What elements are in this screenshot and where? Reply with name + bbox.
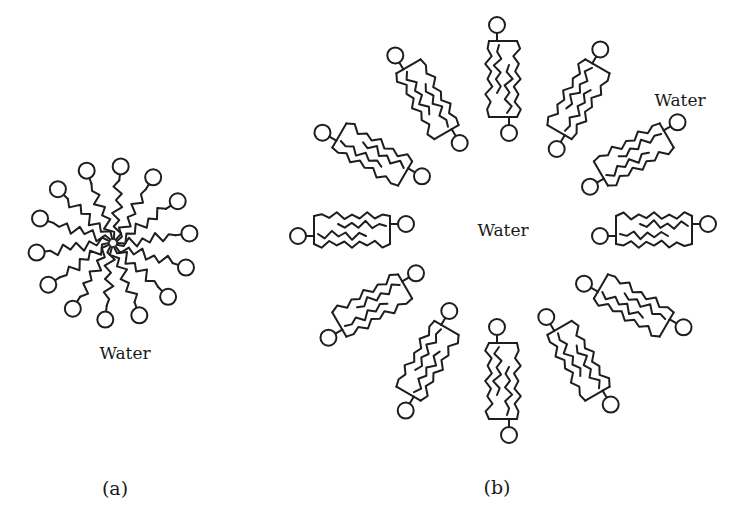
polar-head-icon — [489, 319, 505, 335]
panel-caption-b: (b) — [484, 476, 511, 498]
hydrocarbon-tail — [426, 84, 448, 127]
surfactant-molecule — [65, 245, 110, 317]
polar-head-icon — [314, 125, 330, 141]
surfactant-molecule — [32, 210, 111, 241]
bilayer-segment — [592, 212, 716, 248]
hydrocarbon-tail — [407, 72, 430, 115]
polar-head-icon — [160, 289, 176, 305]
polar-head-icon — [131, 307, 147, 323]
bilayer-segment — [314, 123, 430, 185]
water-label-vesicle-interior: Water — [477, 220, 528, 240]
hydrocarbon-tail — [640, 220, 688, 229]
bilayer-segment — [387, 47, 467, 151]
hydrocarbon-tail — [115, 246, 172, 263]
tail-outline — [616, 212, 692, 219]
surfactant-molecule — [115, 246, 194, 275]
hydrocarbon-tail — [318, 231, 366, 240]
polar-head-icon — [549, 141, 565, 157]
polar-head-icon — [398, 216, 414, 232]
polar-head-icon — [145, 169, 161, 185]
polar-head-icon — [700, 216, 716, 232]
bilayer-segment — [485, 319, 521, 443]
polar-head-icon — [489, 17, 505, 33]
surfactant-molecule — [117, 225, 198, 246]
polar-head-icon — [181, 225, 197, 241]
polar-head-icon — [97, 312, 113, 328]
polar-head-icon — [582, 179, 598, 195]
polar-head-icon — [178, 260, 194, 276]
bilayer-segment — [396, 303, 458, 419]
tail-outline — [513, 41, 521, 117]
polar-head-icon — [441, 303, 457, 319]
polar-head-icon — [501, 427, 517, 443]
hydrocarbon-tail — [338, 221, 386, 228]
surfactant-molecule — [110, 247, 147, 323]
polar-head-icon — [32, 210, 48, 226]
bilayer-segment — [582, 114, 686, 194]
tail-outline — [485, 343, 492, 419]
hydrocarbon-tail — [493, 347, 501, 395]
polar-head-icon — [320, 330, 336, 346]
polar-head-icon — [538, 309, 554, 325]
polar-head-icon — [592, 41, 608, 57]
surfactant-molecule — [117, 169, 162, 241]
polar-head-icon — [408, 265, 424, 281]
hydrocarbon-tail — [505, 367, 512, 415]
bilayer-segment — [547, 41, 609, 157]
polar-head-icon — [113, 158, 129, 174]
polar-head-icon — [676, 319, 692, 335]
polar-head-icon — [65, 301, 81, 317]
surfactant-assembly-figure: Water Water Water (a) (b) — [0, 0, 736, 530]
hydrocarbon-tail — [505, 65, 513, 113]
hydrocarbon-tail — [619, 134, 662, 156]
bilayer-segment — [576, 274, 692, 336]
micelle-diagram — [29, 158, 198, 327]
polar-head-icon — [398, 403, 414, 419]
bilayer-segment — [290, 212, 414, 248]
tail-outline — [314, 212, 390, 219]
tail-outline — [514, 343, 521, 419]
polar-head-icon — [79, 163, 95, 179]
polar-head-icon — [387, 47, 403, 63]
polar-head-icon — [414, 168, 430, 184]
bilayer-segment — [485, 17, 521, 141]
tail-outline — [616, 241, 692, 248]
hydrocarbon-tail — [345, 304, 388, 326]
water-label-micelle: Water — [99, 343, 150, 363]
water-label-vesicle-exterior: Water — [654, 90, 705, 110]
hydrocarbon-tail — [494, 45, 502, 93]
diagram-canvas — [0, 0, 736, 530]
hydrocarbon-tail — [68, 199, 112, 239]
panel-caption-a: (a) — [102, 477, 128, 499]
polar-head-icon — [592, 228, 608, 244]
hydrocarbon-tail — [620, 232, 668, 240]
hydrocarbon-tail — [558, 333, 580, 376]
hydrocarbon-tail — [606, 153, 649, 176]
polar-head-icon — [40, 277, 56, 293]
polar-head-icon — [501, 125, 517, 141]
tail-outline — [314, 241, 390, 248]
polar-head-icon — [670, 114, 686, 130]
polar-head-icon — [603, 397, 619, 413]
hydrocarbon-tail — [357, 284, 400, 307]
polar-head-icon — [452, 135, 468, 151]
polar-head-icon — [170, 193, 186, 209]
polar-head-icon — [29, 245, 45, 261]
surfactant-molecule — [79, 163, 115, 239]
polar-head-icon — [50, 181, 66, 197]
bilayer-segment — [538, 309, 618, 413]
bilayer-segment — [320, 265, 424, 345]
polar-head-icon — [290, 228, 306, 244]
tail-outline — [485, 41, 492, 117]
polar-head-icon — [576, 276, 592, 292]
